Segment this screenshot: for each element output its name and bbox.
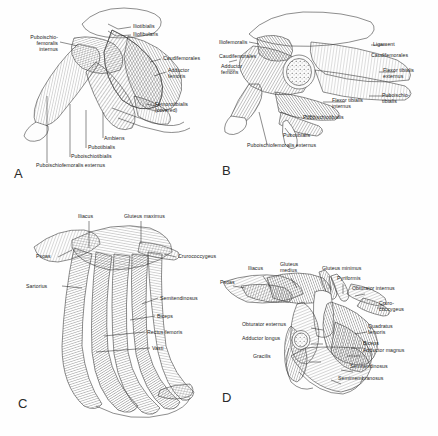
panel-d: Iliacus Gluteus medius Gluteus minimus P… (219, 236, 438, 436)
label-biceps: Biceps (363, 340, 379, 346)
panel-letter-c: C (18, 396, 28, 411)
label-puboischiotibialis: Puboischiotibialis (303, 114, 344, 120)
label-biceps: Biceps (157, 313, 173, 319)
label-pubotibialis: Pubotibialis (283, 132, 310, 138)
panel-letter-a: A (14, 166, 23, 181)
label-rectus-femoris: Rectus femoris (147, 329, 182, 335)
label-gracilis: Gracilis (253, 353, 271, 359)
label-iliacus: Iliacus (78, 213, 93, 219)
label-femorotibialis-covered: Femorotibialis (covered) (155, 101, 188, 113)
label-iliacus: Iliacus (248, 265, 263, 271)
label-semitendinosus: Semitendinosus (160, 295, 198, 301)
label-vasti: Vasti (152, 345, 163, 351)
label-adductor-femoris: Adductor femoris (221, 63, 242, 75)
femur-marrow (295, 333, 308, 347)
femur-marrow (287, 59, 312, 86)
panel-letter-b: B (222, 163, 231, 178)
panel-c: Iliacus Gluteus maximus Psoas Crurococcy… (0, 200, 219, 436)
label-obturator-internus: Obturator internus (352, 285, 395, 291)
label-gluteus-medius: Gluteus medius (280, 261, 298, 273)
label-crurococcygeus: Cruro- coccygeus (379, 300, 404, 312)
label-ligament: Ligament (373, 41, 395, 47)
panel-a-muscles (24, 8, 190, 141)
label-caudifemorales-right: Caudifemorales (371, 52, 408, 58)
label-caudifemorales: Caudifemorales (163, 55, 200, 61)
label-sartorius: Sartorius (26, 283, 47, 289)
label-puboischiofemoralis-externus: Puboischiofemoralis externus (36, 162, 105, 168)
label-psoas: Psoas (220, 279, 235, 285)
label-gluteus-minimus: Gluteus minimus (322, 265, 361, 271)
label-psoas: Psoas (36, 253, 51, 259)
distal-knob (24, 122, 48, 141)
panel-b-muscles (225, 12, 411, 149)
label-semitendinosus: Semitendinosus (350, 363, 388, 369)
label-pyriformis: Pyriformis (337, 275, 361, 281)
label-ambiens: Ambiens (104, 135, 125, 141)
label-crurococcygeus: Crurococcygeus (178, 253, 216, 259)
panel-c-muscles (34, 226, 194, 418)
anatomical-figure: Puboischio- femoralis internus Iliotibia… (0, 0, 438, 436)
label-puboischiotibialis: Puboischiotibialis (71, 153, 112, 159)
label-flexor-tibialis-externus: Flexor tibialis externus (383, 67, 414, 79)
panel-a-illustration (0, 0, 219, 200)
label-semimembranosus: Semimembranosus (338, 375, 383, 381)
label-gluteus-maximus: Gluteus maximus (124, 213, 165, 219)
label-adductor-longus: Adductor longus (242, 335, 280, 341)
label-quadratus-femoris: Quadratus femoris (368, 323, 393, 335)
label-pubotibialis: Pubotibialis (88, 144, 115, 150)
panel-b: Iliofemoralis Caudifemorales Adductor fe… (219, 0, 438, 200)
label-adductor-femoris: Adductor femoris (168, 67, 189, 79)
distal-knob (225, 116, 247, 135)
label-iliofibularis: Iliofibularis (133, 31, 158, 37)
label-flexor-tibialis-internus: Flexor tibialis internus (332, 97, 363, 109)
label-iliofemoralis: Iliofemoralis (219, 39, 247, 45)
panel-c-illustration (0, 200, 219, 436)
label-puboischiofemoralis-internus: Puboischio- femoralis internus (0, 34, 58, 53)
panel-a: Puboischio- femoralis internus Iliotibia… (0, 0, 219, 200)
panel-letter-d: D (222, 390, 232, 405)
label-adductor-magnus: Adductor magnus (363, 347, 404, 353)
label-puboischiofemoralis-externus: Puboischiofemoralis externus (247, 142, 316, 148)
label-obturator-externus: Obturator externus (242, 321, 286, 327)
label-caudifemorales-left: Caudifemorales (219, 53, 256, 59)
label-puboischiotibialis-right: Puboischio- tibialis (382, 92, 410, 104)
label-iliotibialis: Iliotibialis (133, 23, 155, 29)
